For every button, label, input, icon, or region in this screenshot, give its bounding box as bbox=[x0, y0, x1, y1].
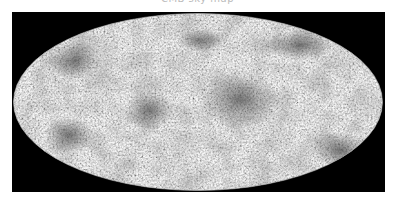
upper-right-region bbox=[265, 30, 335, 60]
cmb-sky-map bbox=[13, 13, 383, 191]
figure-title: CMB sky map bbox=[0, 0, 395, 4]
mid-left-region bbox=[125, 90, 175, 130]
map-frame bbox=[12, 12, 385, 192]
lower-right-region bbox=[310, 132, 370, 168]
center-cold-region bbox=[200, 72, 280, 128]
lower-left-region bbox=[45, 117, 95, 153]
upper-mid-region bbox=[178, 28, 222, 52]
